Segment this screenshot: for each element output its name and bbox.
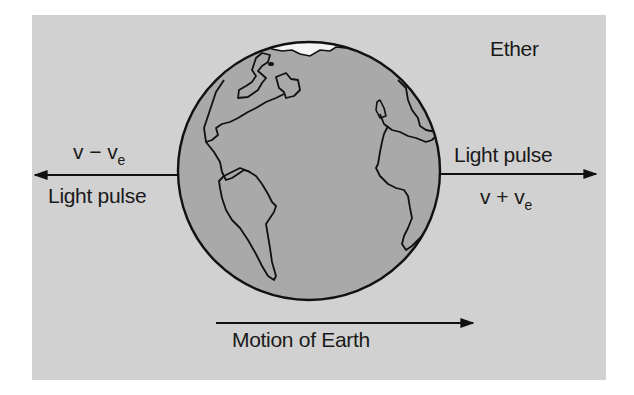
velocity-operator: + <box>490 185 514 208</box>
velocity-term: v <box>514 185 524 208</box>
earth-globe <box>178 38 444 300</box>
velocity-base: v <box>73 140 83 163</box>
left-light-pulse-label: Light pulse <box>48 185 146 206</box>
motion-of-earth-label: Motion of Earth <box>232 329 370 350</box>
left-velocity-label: v−ve <box>73 141 125 162</box>
velocity-base: v <box>480 185 490 208</box>
ether-label: Ether <box>490 38 539 59</box>
velocity-subscript: e <box>524 197 532 213</box>
velocity-operator: − <box>83 140 107 163</box>
velocity-subscript: e <box>117 152 125 168</box>
velocity-term: v <box>107 140 117 163</box>
right-velocity-label: v+ve <box>480 186 532 207</box>
right-light-pulse-label: Light pulse <box>454 144 552 165</box>
